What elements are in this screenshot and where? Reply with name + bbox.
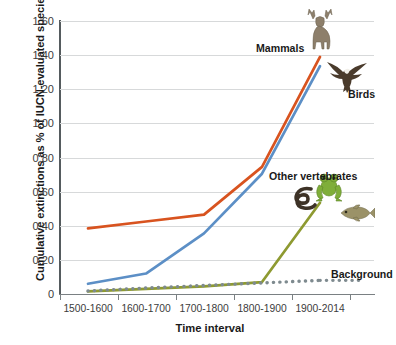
extinctions-line-chart: Cumulative extinctions as % of IUCN-eval…: [0, 0, 396, 345]
annotation-mammals: Mammals: [256, 42, 304, 54]
deer-icon: [300, 8, 342, 56]
annotation-other-vertebrates: Other vertebrates: [269, 170, 357, 182]
annotation-birds: Birds: [348, 88, 375, 100]
fish-icon: [337, 203, 375, 223]
annotation-background: Background: [331, 268, 393, 280]
